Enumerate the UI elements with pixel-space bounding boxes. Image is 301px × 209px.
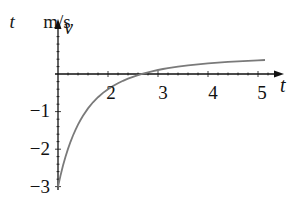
x-tick-2: 2 [106,82,116,103]
x-tick-3: 3 [158,82,168,103]
x-minor-ticks [68,71,268,77]
velocity-curve [58,60,265,187]
x-tick-4: 4 [208,82,218,103]
y-axis-label: v [64,16,73,38]
y-minor-ticks [55,37,61,187]
y-tick-minus-2: −2 [30,138,50,159]
x-tick-5: 5 [257,82,267,103]
y-axis-arrow-icon [55,19,62,29]
velocity-chart: 2 3 4 5 −1 −2 −3 v t [0,0,301,209]
y-tick-minus-1: −1 [30,100,50,121]
y-tick-minus-3: −3 [30,176,50,197]
x-axis-label: t [280,74,286,96]
